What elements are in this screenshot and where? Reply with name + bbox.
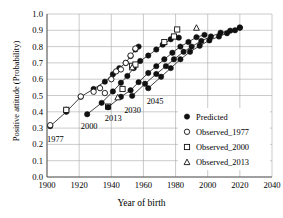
data-point-predicted xyxy=(189,44,194,49)
legend-label: Predicted xyxy=(196,113,228,122)
data-point-predicted xyxy=(84,112,89,117)
data-point-predicted xyxy=(194,34,199,39)
legend-label: Observed_2000 xyxy=(196,143,249,152)
data-point-predicted xyxy=(207,38,212,43)
plot-area: 0.00.10.20.30.40.50.60.70.80.91.01900192… xyxy=(0,0,283,218)
cohort-annotation: 2000 xyxy=(81,122,98,131)
y-tick-label: 0.3 xyxy=(32,123,43,133)
data-point-observed-2000 xyxy=(175,27,180,32)
cohort-annotation: 2013 xyxy=(105,114,122,123)
data-point-predicted xyxy=(118,80,123,85)
data-point-observed-2000 xyxy=(120,86,125,91)
data-point-predicted xyxy=(232,28,237,33)
data-point-predicted xyxy=(181,49,186,54)
y-tick-label: 0.7 xyxy=(32,58,43,68)
data-point-observed-2000 xyxy=(162,39,167,44)
cohort-annotation: 1977 xyxy=(47,135,64,144)
data-point-predicted xyxy=(216,34,221,39)
data-point-predicted xyxy=(99,100,104,105)
data-point-predicted xyxy=(125,73,130,78)
legend-label: Observed_1977 xyxy=(196,128,249,137)
data-point-observed-2013 xyxy=(194,25,200,31)
data-point-observed-2000 xyxy=(64,107,69,112)
y-tick-label: 0.2 xyxy=(32,139,43,149)
x-tick-label: 2020 xyxy=(231,180,248,190)
data-point-predicted xyxy=(202,32,207,37)
data-point-observed-1977 xyxy=(184,129,189,134)
cohort-annotation: 2045 xyxy=(147,97,164,106)
data-point-predicted xyxy=(154,71,159,76)
data-point-predicted xyxy=(154,63,159,68)
data-point-predicted xyxy=(105,105,110,110)
x-tick-label: 1980 xyxy=(167,180,184,190)
data-point-observed-1977 xyxy=(78,94,83,99)
chart-figure: Positive attitude (Probability) Year of … xyxy=(0,0,283,218)
data-point-observed-1977 xyxy=(123,60,128,65)
data-point-predicted xyxy=(102,79,107,84)
data-point-predicted xyxy=(168,65,173,70)
data-point-predicted xyxy=(146,70,151,75)
x-tick-label: 2040 xyxy=(263,180,280,190)
x-tick-label: 2000 xyxy=(199,180,216,190)
data-point-observed-2000 xyxy=(184,144,189,149)
data-point-predicted xyxy=(162,57,167,62)
data-point-observed-1977 xyxy=(109,77,114,82)
data-point-observed-1977 xyxy=(133,46,138,51)
data-point-predicted xyxy=(154,47,159,52)
data-point-predicted xyxy=(224,31,229,36)
data-point-observed-1977 xyxy=(102,90,107,95)
y-tick-label: 0.1 xyxy=(32,156,43,166)
cohort-annotation: 2030 xyxy=(124,106,141,115)
y-tick-label: 0.5 xyxy=(32,91,43,101)
x-tick-label: 1920 xyxy=(71,180,88,190)
y-tick-label: 0.8 xyxy=(32,42,43,52)
data-point-predicted xyxy=(178,57,183,62)
data-point-predicted xyxy=(170,50,175,55)
data-point-predicted xyxy=(146,85,151,90)
data-point-predicted xyxy=(110,89,115,94)
data-point-observed-1977 xyxy=(91,89,96,94)
chart-canvas: 0.00.10.20.30.40.50.60.70.80.91.01900192… xyxy=(0,0,283,218)
x-tick-label: 1940 xyxy=(103,180,120,190)
data-point-observed-2000 xyxy=(171,34,176,39)
legend-label: Observed_2013 xyxy=(196,158,249,167)
x-tick-label: 1960 xyxy=(135,180,152,190)
data-point-predicted xyxy=(187,49,192,54)
data-point-observed-1977 xyxy=(97,85,102,90)
data-point-observed-1977 xyxy=(48,122,53,127)
data-point-predicted xyxy=(146,53,151,58)
data-point-predicted xyxy=(237,25,242,30)
series-predicted_2045 xyxy=(146,25,243,91)
data-point-predicted xyxy=(186,39,191,44)
y-tick-label: 0.6 xyxy=(32,74,43,84)
y-tick-label: 0.9 xyxy=(32,25,43,35)
data-point-predicted xyxy=(129,93,134,98)
data-point-predicted xyxy=(158,74,163,79)
data-point-predicted xyxy=(184,114,189,119)
data-point-predicted xyxy=(178,44,183,49)
data-point-predicted xyxy=(199,38,204,43)
data-point-observed-1977 xyxy=(128,53,133,58)
data-point-predicted xyxy=(171,57,176,62)
data-point-predicted xyxy=(136,79,141,84)
y-tick-label: 0.4 xyxy=(32,107,43,117)
data-point-predicted xyxy=(128,88,133,93)
x-tick-label: 1900 xyxy=(38,180,55,190)
data-point-observed-1977 xyxy=(118,67,123,72)
data-point-predicted xyxy=(197,43,202,48)
y-tick-label: 1.0 xyxy=(32,9,43,19)
